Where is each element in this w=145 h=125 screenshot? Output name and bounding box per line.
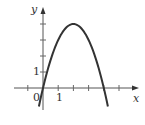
x-axis-label: x (133, 92, 140, 105)
x-axis-arrow-icon (132, 86, 139, 91)
origin-label: 0 (33, 91, 40, 104)
y-axis-label: y (30, 3, 38, 16)
parabola-curve (39, 24, 108, 106)
y-axis-arrow-icon (41, 7, 46, 14)
y-tick-label-1: 1 (33, 65, 40, 78)
chart: y x 1 1 0 (0, 0, 145, 125)
x-tick-label-1: 1 (56, 91, 63, 104)
